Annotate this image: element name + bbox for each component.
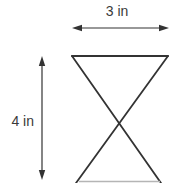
height-dimension-label: 4 in — [11, 113, 34, 129]
arrowhead-up-icon — [39, 56, 45, 66]
shape-diagonal-left-to-right — [72, 56, 161, 183]
arrowhead-left-icon — [72, 25, 82, 31]
arrowhead-down-icon — [39, 170, 45, 180]
shape-diagonal-right-to-left — [76, 56, 168, 183]
geometry-diagram: 3 in 4 in — [0, 0, 180, 183]
diagram-svg: 3 in 4 in — [0, 0, 180, 183]
vertical-dimension-arrow — [39, 56, 45, 180]
hourglass-shape — [72, 56, 168, 183]
horizontal-dimension-arrow — [72, 25, 169, 31]
width-dimension-label: 3 in — [106, 3, 129, 19]
arrowhead-right-icon — [159, 25, 169, 31]
